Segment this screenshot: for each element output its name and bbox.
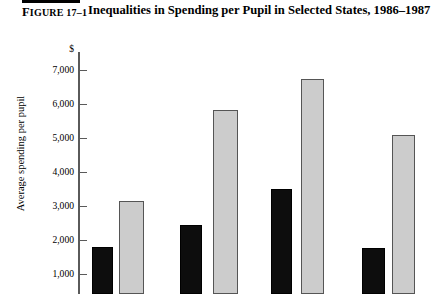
y-axis-tick: 4,000	[34, 166, 86, 178]
y-axis-tick-mark	[79, 104, 87, 105]
currency-symbol-label: $	[56, 44, 74, 54]
y-axis-tick: 1,000	[34, 268, 86, 280]
bar-group4-black	[362, 248, 385, 294]
bar-group1-black	[92, 247, 113, 294]
y-axis-tick-label: 5,000	[30, 132, 74, 144]
y-axis-tick-label: 7,000	[30, 64, 74, 76]
bar-group3-gray	[301, 79, 324, 294]
bar-chart: Average spending per pupil $ 7,0006,0005…	[0, 0, 447, 294]
y-axis-tick-mark	[79, 274, 87, 275]
y-axis-tick-mark	[79, 70, 87, 71]
bar-group1-gray	[119, 201, 144, 294]
y-axis-tick: 6,000	[34, 98, 86, 110]
y-axis-tick-mark	[79, 138, 87, 139]
bar-group2-black	[180, 225, 202, 294]
y-axis-tick-label: 1,000	[30, 268, 74, 280]
y-axis-tick: 7,000	[34, 64, 86, 76]
y-axis-tick-label: 4,000	[30, 166, 74, 178]
y-axis-tick: 5,000	[34, 132, 86, 144]
y-axis-tick: 2,000	[34, 234, 86, 246]
y-axis-tick-label: 2,000	[30, 234, 74, 246]
y-axis-tick-mark	[79, 206, 87, 207]
y-axis-tick-mark	[79, 240, 87, 241]
y-axis-tick-mark	[79, 172, 87, 173]
bar-group4-gray	[392, 135, 415, 294]
y-axis-tick-label: 3,000	[30, 200, 74, 212]
y-axis-tick: 3,000	[34, 200, 86, 212]
y-axis-title: Average spending per pupil	[15, 84, 26, 224]
bar-group3-black	[271, 189, 292, 294]
bar-group2-gray	[213, 110, 238, 294]
y-axis-tick-label: 6,000	[30, 98, 74, 110]
